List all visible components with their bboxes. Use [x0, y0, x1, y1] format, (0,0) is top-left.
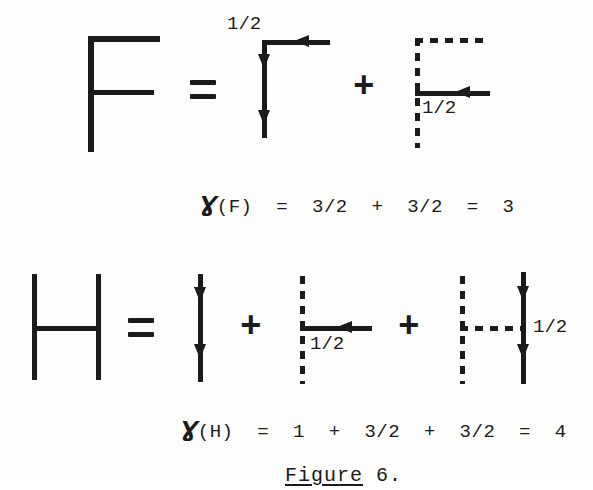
h-crossbar	[32, 326, 101, 331]
f-term-2-horizontal	[415, 91, 490, 96]
figure-caption-word: Figure	[285, 464, 363, 487]
caption-gamma-f-text: (F) = 3/2 + 3/2 = 3	[217, 196, 515, 218]
f-middle-bar	[88, 90, 154, 95]
h-term-2-arrowhead-left	[337, 321, 352, 333]
figure-caption-number: 6.	[363, 464, 402, 487]
f-operator-plus: +	[353, 70, 375, 106]
gamma-symbol-f: Ɣ	[199, 194, 217, 216]
h-term-3-crossbar-dashed	[460, 326, 524, 331]
f-term-1-label: 1/2	[227, 14, 261, 34]
h-term-3-arrowhead-upper	[517, 286, 529, 301]
h-term-1-arrowhead-upper	[194, 287, 206, 302]
h-term-2-label: 1/2	[310, 334, 344, 354]
gamma-symbol-h: Ɣ	[180, 419, 198, 441]
h-operator-plus-1: +	[240, 310, 262, 346]
f-term-2-top-dashed	[415, 38, 490, 43]
h-term-1-arrowhead-lower	[194, 344, 206, 359]
f-term-1-arrowhead-upper	[258, 54, 270, 69]
caption-gamma-f: Ɣ(F) = 3/2 + 3/2 = 3	[152, 172, 514, 240]
f-term-1-arrowhead-lower	[258, 110, 270, 125]
h-operator-plus-2: +	[398, 310, 420, 346]
figure-caption: Figure 6.	[233, 443, 402, 490]
h-term-3-label: 1/2	[533, 317, 567, 337]
f-term-2-label: 1/2	[422, 98, 456, 118]
f-top-bar	[88, 36, 160, 42]
caption-gamma-h-text: (H) = 1 + 3/2 + 3/2 = 4	[198, 421, 567, 443]
h-term-3-arrowhead-lower	[517, 344, 529, 359]
f-term-1-arrowhead-left	[294, 35, 309, 47]
f-term-2-arrowhead-left	[455, 86, 470, 98]
h-term-2-horizontal	[300, 326, 372, 331]
